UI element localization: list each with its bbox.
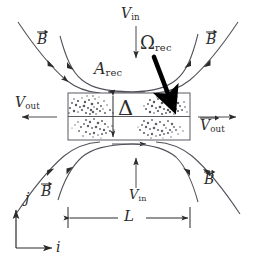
field-arrow-tl-outer	[48, 60, 55, 68]
v-in-bottom-label: Vin	[129, 188, 147, 201]
axis-j-label: j	[25, 191, 29, 205]
omega-rec-label: Ωrec	[140, 34, 172, 52]
field-line-top-left-outer	[18, 22, 100, 93]
b-bottom-left-label: B	[41, 184, 51, 198]
a-rec-label: Arec	[94, 61, 122, 77]
length-l-label: L	[124, 209, 134, 224]
field-arrow-bl-inner	[67, 167, 74, 175]
field-arrow-bl-outer	[47, 168, 54, 176]
b-top-left-label: B	[37, 32, 47, 46]
v-out-right-label: Vout	[200, 118, 225, 132]
field-arrow-br-inner	[183, 168, 190, 176]
field-line-bottom-right-outer	[156, 142, 240, 214]
coordinate-axes	[16, 210, 52, 248]
field-line-top-right-outer	[156, 22, 238, 93]
b-bottom-right-label: B	[204, 172, 214, 186]
field-arrow-tr-inner	[184, 60, 191, 68]
v-out-left-label: Vout	[15, 95, 40, 109]
b-top-right-label: B	[206, 32, 216, 46]
delta-thickness-label: Δ	[118, 98, 133, 119]
v-in-top-label: Vin	[121, 6, 140, 20]
axis-i-label: i	[56, 240, 60, 254]
reconnection-diagram: Vin Vin Vout Vout Ωrec Arec Δ L	[0, 0, 254, 267]
